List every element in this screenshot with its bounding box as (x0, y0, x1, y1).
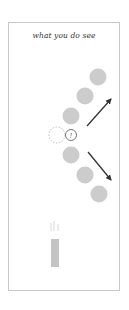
ball-upper-3 (63, 108, 80, 125)
arrow-up-right-icon (87, 99, 111, 126)
ball-upper-2 (77, 88, 94, 105)
svg-text:!: ! (70, 132, 73, 140)
ball-trajectory-diagram: ! (0, 0, 129, 310)
alert-marker-icon: ! (66, 130, 77, 141)
paddle (51, 239, 59, 267)
ghost-ball-dashed (49, 127, 65, 143)
ball-lower-3 (91, 186, 108, 203)
ball-lower-2 (77, 167, 94, 184)
ball-lower-1 (63, 147, 80, 164)
ball-upper-1 (90, 69, 107, 86)
paddle-motion-lines (51, 221, 58, 231)
